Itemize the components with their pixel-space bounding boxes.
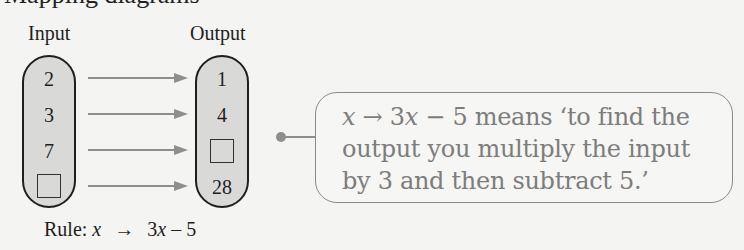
output-blank-box (210, 139, 234, 163)
rule-coef: 3 (147, 218, 157, 240)
mapping-arrow (88, 181, 188, 191)
output-value: 4 (197, 103, 247, 127)
input-value: 7 (24, 139, 74, 163)
rule-expr-var: x (157, 218, 166, 240)
explanation-callout: x → 3x − 5 means ‘to find the output you… (315, 92, 733, 203)
output-label: Output (190, 22, 246, 45)
callout-arrow-icon: → (355, 103, 389, 131)
callout-coef: 3 (390, 103, 405, 131)
explanation-text: x → 3x − 5 means ‘to find the output you… (342, 101, 732, 197)
rule-expr-rest: – 5 (166, 218, 196, 240)
callout-line-2: output you multiply the input (342, 133, 732, 165)
input-label: Input (28, 22, 70, 45)
input-blank-box (37, 174, 61, 198)
input-value: 2 (24, 67, 74, 91)
rule-arrow-icon: → (114, 218, 134, 240)
rule-variable: x (92, 218, 101, 240)
rule-label: Rule: x → 3x – 5 (44, 218, 196, 241)
mapping-arrow (88, 145, 188, 155)
clipped-heading: Mapping diagrams (4, 0, 200, 10)
output-value: 1 (197, 67, 247, 91)
output-set: 1 4 28 (195, 55, 249, 208)
input-set: 2 3 7 (22, 55, 76, 208)
callout-rest: − 5 means ‘to find the (418, 103, 690, 131)
connector-line (284, 136, 315, 138)
callout-line-3: by 3 and then subtract 5.’ (342, 165, 732, 197)
output-value: 28 (197, 175, 247, 199)
rule-prefix: Rule: (44, 218, 87, 240)
callout-var2: x (405, 103, 418, 131)
mapping-arrow (88, 109, 188, 119)
callout-var: x (342, 103, 355, 131)
input-value: 3 (24, 103, 74, 127)
mapping-arrow (88, 73, 188, 83)
callout-line-1: x → 3x − 5 means ‘to find the (342, 101, 732, 133)
